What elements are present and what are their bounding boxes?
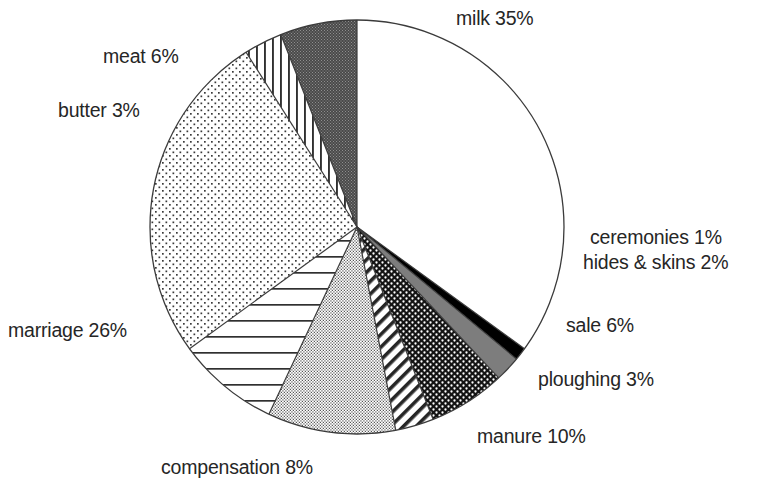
slice-label-compensation: compensation 8% xyxy=(161,455,313,479)
slice-label-meat: meat 6% xyxy=(103,44,179,68)
slice-label-butter: butter 3% xyxy=(58,98,140,122)
slice-label-sale: sale 6% xyxy=(566,313,634,337)
slice-label-ploughing: ploughing 3% xyxy=(538,367,654,391)
slice-label-hides-skins: hides & skins 2% xyxy=(583,250,728,274)
slice-label-manure: manure 10% xyxy=(477,424,586,448)
slice-label-ceremonies: ceremonies 1% xyxy=(590,225,722,249)
slice-label-marriage: marriage 26% xyxy=(8,318,127,342)
pie-chart-figure: milk 35% meat 6% butter 3% marriage 26% … xyxy=(0,0,763,481)
slice-label-milk: milk 35% xyxy=(456,6,534,30)
